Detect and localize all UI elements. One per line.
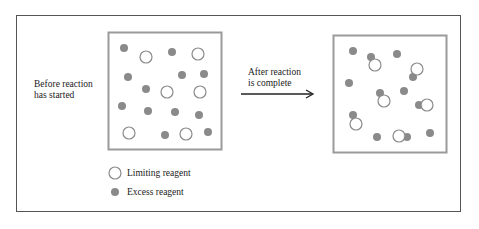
reaction-arrow-icon (241, 90, 313, 98)
excess-reagent-particle (426, 129, 434, 137)
excess-reagent-particle (142, 85, 150, 93)
limiting-reagent-particle (140, 51, 152, 63)
limiting-reagent-particle (180, 128, 192, 140)
excess-reagent-particle (144, 107, 152, 115)
excess-reagent-particle (393, 50, 401, 58)
limiting-reagent-particle (378, 95, 390, 107)
excess-reagent-legend-icon (111, 188, 119, 196)
limiting-reagent-particle (161, 86, 173, 98)
excess-reagent-particle (195, 111, 203, 119)
excess-reagent-particle (400, 87, 408, 95)
limiting-reagent-particle (194, 86, 206, 98)
limiting-reagent-particle (123, 127, 135, 139)
reaction-diagram (0, 0, 479, 229)
excess-reagent-particle (168, 48, 176, 56)
excess-reagent-particle (178, 71, 186, 79)
excess-reagent-particle (171, 108, 179, 116)
limiting-reagent-particle (421, 99, 433, 111)
excess-reagent-particle (120, 44, 128, 52)
excess-reagent-particle (373, 133, 381, 141)
limiting-reagent-particle (350, 118, 362, 130)
limiting-reagent-particle (411, 63, 423, 75)
limiting-reagent-particle (369, 59, 381, 71)
excess-reagent-particle (349, 47, 357, 55)
excess-reagent-particle (200, 70, 208, 78)
limiting-reagent-legend-icon (109, 167, 121, 179)
excess-reagent-particle (161, 131, 169, 139)
excess-reagent-particle (204, 128, 212, 136)
before-particles (118, 44, 212, 140)
excess-reagent-particle (345, 79, 353, 87)
excess-reagent-particle (124, 73, 132, 81)
limiting-reagent-particle (192, 48, 204, 60)
limiting-reagent-particle (393, 130, 405, 142)
excess-reagent-particle (118, 102, 126, 110)
after-particles (345, 47, 434, 142)
